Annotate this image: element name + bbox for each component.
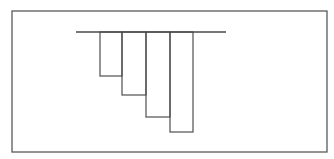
diagram: [0, 0, 334, 159]
